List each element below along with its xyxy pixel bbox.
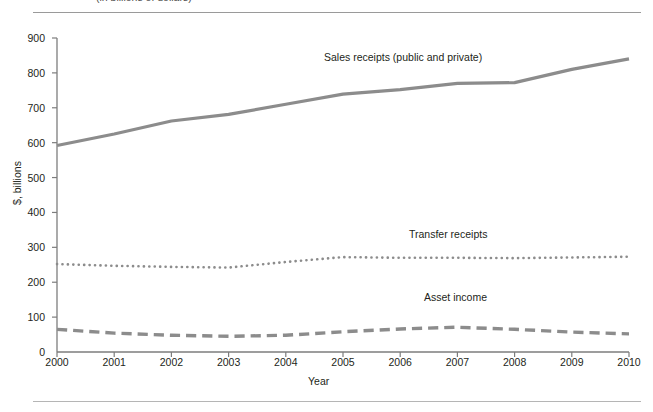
series-line-1 bbox=[57, 257, 629, 268]
series-label-transfer-receipts: Transfer receipts bbox=[409, 228, 487, 240]
series-label-asset-income: Asset income bbox=[424, 291, 487, 303]
tick-marks bbox=[52, 38, 629, 357]
chart-figure: (in billions of dollars) $, billions Yea… bbox=[0, 0, 653, 412]
axis-lines bbox=[57, 38, 629, 352]
series-line-2 bbox=[57, 327, 629, 336]
series-lines bbox=[57, 59, 629, 336]
series-line-0 bbox=[57, 59, 629, 146]
series-label-sales-receipts: Sales receipts (public and private) bbox=[324, 51, 482, 63]
